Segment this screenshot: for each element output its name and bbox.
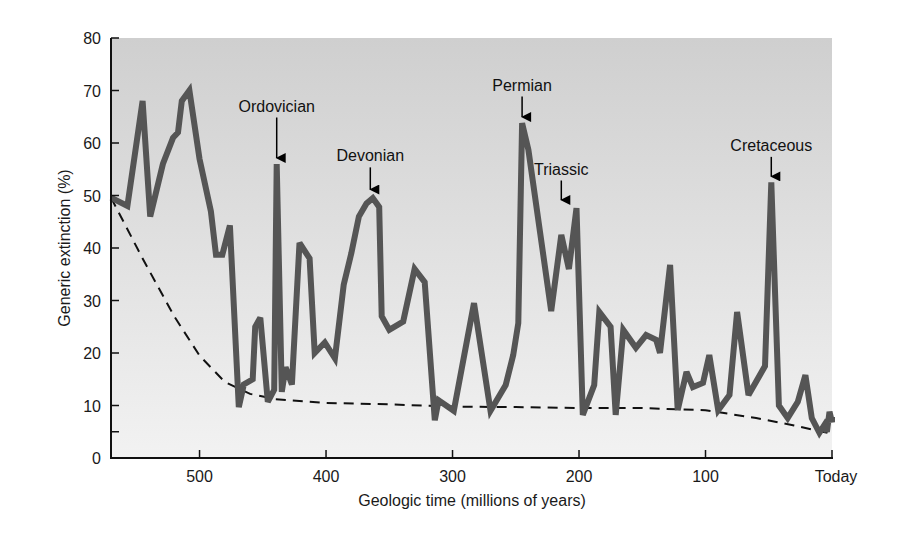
x-tick-label: 300 <box>439 468 466 485</box>
y-tick-label: 50 <box>83 188 101 205</box>
plot-area <box>111 38 832 458</box>
annotation-label: Permian <box>492 77 552 94</box>
y-tick-label: 30 <box>83 293 101 310</box>
y-axis-title: Generic extinction (%) <box>56 169 73 326</box>
y-tick-label: 60 <box>83 135 101 152</box>
y-tick-label: 0 <box>92 450 101 467</box>
x-tick-label: 400 <box>313 468 340 485</box>
x-tick-label: Today <box>815 468 858 485</box>
y-tick-label: 80 <box>83 30 101 47</box>
y-tick-label: 10 <box>83 398 101 415</box>
y-tick-label: 70 <box>83 83 101 100</box>
annotation-label: Triassic <box>534 161 589 178</box>
y-tick-label: 20 <box>83 345 101 362</box>
annotation-label: Cretaceous <box>730 137 812 154</box>
x-tick-label: 200 <box>566 468 593 485</box>
x-tick-label: 100 <box>692 468 719 485</box>
annotation-label: Devonian <box>337 147 405 164</box>
y-tick-label: 40 <box>83 240 101 257</box>
x-tick-label: 500 <box>186 468 213 485</box>
annotation-label: Ordovician <box>238 98 314 115</box>
extinction-chart: OrdovicianDevonianPermianTriassicCretace… <box>0 0 902 536</box>
x-axis-title: Geologic time (millions of years) <box>358 492 586 509</box>
